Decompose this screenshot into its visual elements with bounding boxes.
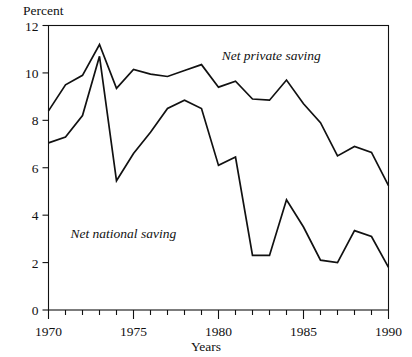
series-label-0: Net private saving [221, 48, 321, 63]
y-tick-label-10: 10 [25, 66, 39, 81]
x-tick-label-1985: 1985 [290, 324, 317, 339]
x-axis-title: Years [191, 339, 221, 354]
x-tick-label-1980: 1980 [205, 324, 232, 339]
y-tick-label-2: 2 [32, 256, 39, 271]
y-tick-label-0: 0 [32, 303, 39, 318]
y-tick-label-4: 4 [32, 208, 39, 223]
x-tick-label-1990: 1990 [375, 324, 402, 339]
y-tick-label-12: 12 [25, 19, 39, 34]
series-label-1: Net national saving [69, 226, 176, 241]
x-tick-label-1975: 1975 [120, 324, 147, 339]
y-axis-title: Percent [23, 3, 64, 18]
chart-figure: Percent Years 024681012 1970197519801985… [0, 0, 412, 357]
chart-background [0, 0, 412, 357]
y-tick-label-6: 6 [32, 161, 39, 176]
x-tick-label-1970: 1970 [35, 324, 62, 339]
y-tick-label-8: 8 [32, 113, 39, 128]
